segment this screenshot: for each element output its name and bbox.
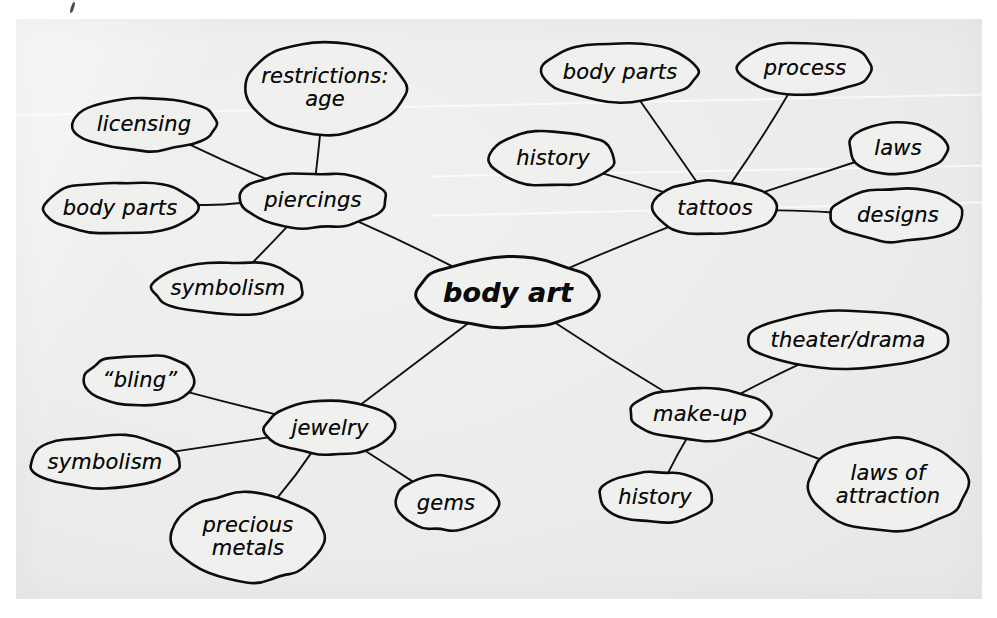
node-precious-metals[interactable] xyxy=(172,492,324,582)
edge-piercings-to-piercings-body-parts xyxy=(196,203,240,205)
node-tattoos-history[interactable] xyxy=(490,130,616,186)
edge-tattoos-to-process xyxy=(731,93,789,183)
node-make-up[interactable] xyxy=(630,387,770,441)
node-piercings-body-parts[interactable] xyxy=(42,181,198,235)
mind-map-page: body artpiercingslicensingrestrictions: … xyxy=(0,0,997,618)
node-tattoos[interactable] xyxy=(651,181,779,235)
edge-tattoos-to-laws xyxy=(764,162,857,192)
node-piercings[interactable] xyxy=(239,172,387,228)
node-restrictions-age[interactable] xyxy=(244,41,406,135)
edge-tattoos-to-designs xyxy=(778,210,833,212)
node-makeup-history[interactable] xyxy=(598,471,712,523)
edge-body-art-to-tattoos xyxy=(569,226,670,268)
node-licensing[interactable] xyxy=(70,97,218,151)
node-laws[interactable] xyxy=(848,122,948,174)
edge-body-art-to-piercings xyxy=(358,221,452,266)
node-laws-of-attraction[interactable] xyxy=(808,438,968,532)
node-jewelry[interactable] xyxy=(265,401,395,455)
node-body-art[interactable] xyxy=(416,258,600,328)
edge-jewelry-to-bling xyxy=(188,392,276,414)
edge-make-up-to-makeup-history xyxy=(668,440,686,473)
edge-piercings-to-licensing xyxy=(189,144,266,179)
edge-jewelry-to-precious-metals xyxy=(278,453,311,497)
node-process[interactable] xyxy=(738,41,872,95)
edge-make-up-to-laws-of-attraction xyxy=(749,432,822,460)
edge-jewelry-to-gems xyxy=(364,450,414,483)
edge-tattoos-to-tattoos-history xyxy=(604,174,665,193)
node-theater-drama[interactable] xyxy=(747,311,949,369)
node-piercings-symbolism[interactable] xyxy=(152,261,304,315)
node-bling[interactable] xyxy=(84,354,196,406)
edge-body-art-to-make-up xyxy=(554,322,664,392)
edge-body-art-to-jewelry xyxy=(360,324,468,406)
node-gems[interactable] xyxy=(394,476,498,530)
node-jewelry-symbolism[interactable] xyxy=(29,435,181,489)
edge-piercings-to-piercings-symbolism xyxy=(252,225,289,263)
edge-tattoos-to-tattoos-body-parts xyxy=(639,99,698,183)
edge-jewelry-to-jewelry-symbolism xyxy=(174,437,270,452)
edge-piercings-to-restrictions-age xyxy=(316,134,320,173)
node-tattoos-body-parts[interactable] xyxy=(540,43,700,101)
edge-make-up-to-theater-drama xyxy=(742,364,800,393)
node-designs[interactable] xyxy=(831,188,965,242)
